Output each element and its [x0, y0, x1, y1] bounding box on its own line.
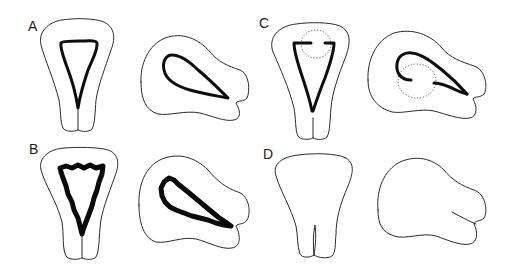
cavity-lesion-front-left — [294, 43, 312, 111]
uterus-side-outline — [368, 31, 486, 118]
cavity-lesion-front — [61, 41, 97, 108]
panel-label-c: C — [259, 15, 269, 31]
cervical-slit — [452, 212, 476, 224]
uterus-side-outline — [139, 156, 249, 248]
cavity-lesion-front-right — [313, 43, 334, 111]
figure-canvas: A B C D — [0, 0, 515, 278]
panel-b: B — [29, 141, 249, 259]
panel-a: A — [28, 18, 249, 131]
panel-label-d: D — [263, 146, 273, 162]
panel-label-a: A — [28, 18, 38, 34]
panel-c: C — [259, 15, 486, 139]
cavity-lesion-front-rough — [60, 165, 103, 234]
uterus-front-outline — [40, 19, 113, 132]
uterus-side-outline — [141, 36, 249, 121]
cervical-notch — [313, 225, 315, 255]
panel-d: D — [263, 146, 486, 258]
cavity-lesion-side — [163, 55, 228, 98]
uterus-side-outline — [378, 158, 486, 244]
panel-label-b: B — [29, 141, 38, 157]
cavity-lesion-side-rough — [161, 178, 231, 226]
uterus-front-outline — [272, 23, 349, 140]
dotted-circle-side — [398, 64, 436, 98]
